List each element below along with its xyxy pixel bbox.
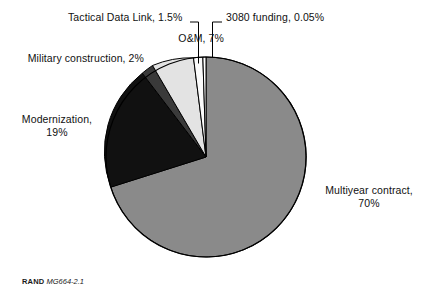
pie-label-multiyear-contract-line1: Multiyear contract,	[325, 184, 413, 196]
pie-label-multiyear-contract: Multiyear contract, 70%	[315, 184, 423, 209]
pie-label-multiyear-contract-line2: 70%	[358, 197, 379, 209]
pie-chart-canvas	[0, 0, 430, 303]
pie-label-modernization-line2: 19%	[46, 126, 67, 138]
pie-label-modernization-line1: Modernization,	[22, 113, 92, 125]
pie-label-om: O&M, 7%	[120, 32, 224, 45]
source-caption-prefix: RAND	[22, 277, 44, 286]
source-caption: RANDMG664-2.1	[22, 277, 84, 287]
pie-chart-figure: Tactical Data Link, 1.5% 3080 funding, 0…	[0, 0, 430, 303]
pie-label-military-construction: Military construction, 2%	[8, 52, 144, 65]
pie-label-modernization: Modernization, 19%	[14, 113, 100, 138]
pie-label-tactical-data-link: Tactical Data Link, 1.5%	[68, 11, 182, 24]
pie-label-3080-funding: 3080 funding, 0.05%	[226, 11, 324, 24]
source-caption-id: MG664-2.1	[46, 277, 84, 286]
